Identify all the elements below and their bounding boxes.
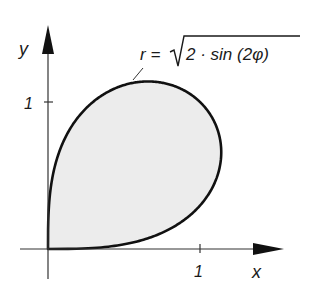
x-tick-label: 1 <box>194 263 203 280</box>
lemniscate-lobe <box>48 81 221 249</box>
x-axis-arrow-icon <box>253 243 284 255</box>
formula-radicand: 2 · sin (2φ) <box>185 45 269 64</box>
formula-lhs: r = <box>140 45 160 64</box>
y-axis-label: y <box>17 39 29 59</box>
polar-curve-diagram: 1 x 1 y r = 2 · sin (2φ) <box>0 0 316 294</box>
y-axis-arrow-icon <box>42 25 54 54</box>
y-tick-label: 1 <box>24 95 33 112</box>
x-axis-label: x <box>251 262 262 282</box>
formula-leader-line <box>133 68 143 80</box>
